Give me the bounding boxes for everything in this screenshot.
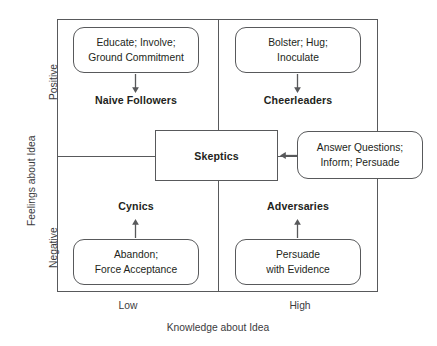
arrow-up-icon-cynics: [131, 218, 140, 238]
arrow-up-icon-adversaries: [293, 218, 302, 238]
x-axis-tick-low: Low: [98, 300, 158, 311]
action-box-cheerleaders: Bolster; Hug; Inoculate: [235, 27, 361, 73]
arrow-left-icon-skeptics: [279, 151, 299, 160]
center-box-skeptics: Skeptics: [155, 130, 278, 181]
arrow-down-icon-cheerleaders: [293, 74, 302, 94]
quadrant-label-adversaries: Adversaries: [238, 200, 358, 212]
action-box-cynics: Abandon; Force Acceptance: [73, 239, 199, 285]
y-axis-tick-positive: Positive: [48, 64, 59, 100]
y-axis-label: Feelings about Idea: [26, 136, 37, 226]
action-line-1: Educate; Involve;: [97, 35, 176, 50]
action-line-2: Force Acceptance: [95, 262, 177, 277]
quadrant-label-cynics: Cynics: [76, 200, 196, 212]
action-line-1: Persuade: [276, 247, 320, 262]
action-line-1: Answer Questions;: [317, 140, 403, 155]
action-line-2: Inform; Persuade: [321, 155, 400, 170]
action-line-2: Inoculate: [277, 50, 319, 65]
diagram-canvas: Educate; Involve; Ground Commitment Naiv…: [0, 0, 437, 346]
action-line-1: Bolster; Hug;: [268, 35, 328, 50]
action-box-adversaries: Persuade with Evidence: [235, 239, 361, 285]
center-label: Skeptics: [194, 150, 238, 162]
action-box-naive-followers: Educate; Involve; Ground Commitment: [73, 27, 199, 73]
quadrant-label-cheerleaders: Cheerleaders: [238, 94, 358, 106]
action-line-2: Ground Commitment: [88, 50, 184, 65]
y-axis-tick-negative: Negative: [48, 227, 59, 268]
action-line-1: Abandon;: [114, 247, 158, 262]
action-line-2: with Evidence: [266, 262, 330, 277]
x-axis-tick-high: High: [270, 300, 330, 311]
x-axis-label: Knowledge about Idea: [138, 322, 298, 333]
arrow-down-icon-naive-followers: [131, 74, 140, 94]
action-box-skeptics: Answer Questions; Inform; Persuade: [297, 131, 423, 179]
quadrant-label-naive-followers: Naive Followers: [76, 94, 196, 106]
